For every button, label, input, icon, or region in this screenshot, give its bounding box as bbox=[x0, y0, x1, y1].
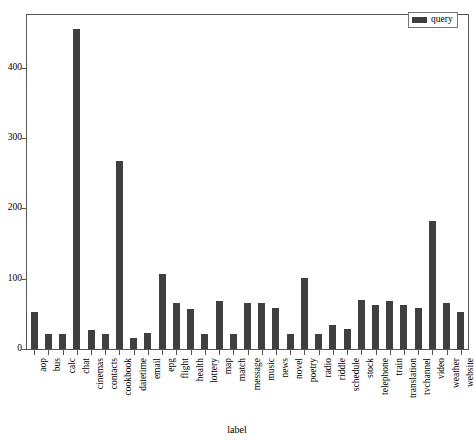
bar-video[interactable] bbox=[429, 221, 436, 349]
y-axis-tick-label: 0 bbox=[0, 343, 22, 353]
bar-email[interactable] bbox=[144, 333, 151, 349]
bar-train[interactable] bbox=[386, 301, 393, 349]
x-axis-tick-label-bus: bus bbox=[52, 358, 62, 371]
bar-poetry[interactable] bbox=[301, 278, 308, 349]
x-axis-tick-mark bbox=[418, 350, 419, 355]
x-axis-tick-label-datetime: datetime bbox=[138, 358, 148, 391]
bar-riddle[interactable] bbox=[329, 325, 336, 349]
x-axis-tick-label-tvchannel: tvchannel bbox=[422, 358, 432, 395]
bar-flight[interactable] bbox=[173, 303, 180, 349]
x-axis-tick-label-riddle: riddle bbox=[337, 358, 347, 380]
x-axis-tick-label-cinemas: cinemas bbox=[95, 358, 105, 389]
y-axis-tick-mark bbox=[21, 279, 26, 280]
x-axis-tick-label-radio: radio bbox=[323, 358, 333, 378]
x-axis-tick-label-music: music bbox=[266, 358, 276, 381]
y-axis-tick-label: 400 bbox=[0, 62, 22, 72]
x-axis-tick-mark bbox=[134, 350, 135, 355]
bar-chart: 0100200300400 aopbuscalcchatcinemasconta… bbox=[0, 0, 474, 442]
x-axis-tick-label-translation: translation bbox=[408, 358, 418, 398]
y-axis-tick-label: 300 bbox=[0, 132, 22, 142]
x-axis-tick-label-news: news bbox=[280, 358, 290, 378]
bar-translation[interactable] bbox=[400, 305, 407, 349]
x-axis-tick-label-telephone: telephone bbox=[380, 358, 390, 395]
x-axis-tick-label-weather: weather bbox=[451, 358, 461, 388]
x-axis-tick-mark bbox=[347, 350, 348, 355]
bar-message[interactable] bbox=[244, 303, 251, 349]
x-axis-tick-label-novel: novel bbox=[294, 358, 304, 379]
bar-weather[interactable] bbox=[443, 303, 450, 349]
x-axis-tick-mark bbox=[361, 350, 362, 355]
legend-label-query: query bbox=[431, 15, 453, 25]
x-axis-tick-mark bbox=[248, 350, 249, 355]
x-axis-tick-mark bbox=[205, 350, 206, 355]
x-axis-tick-mark bbox=[461, 350, 462, 355]
x-axis-tick-mark bbox=[376, 350, 377, 355]
bar-cinemas[interactable] bbox=[88, 330, 95, 349]
x-axis-tick-mark bbox=[219, 350, 220, 355]
bar-stock[interactable] bbox=[358, 300, 365, 349]
x-axis-tick-mark bbox=[191, 350, 192, 355]
bar-news[interactable] bbox=[272, 308, 279, 349]
bar-lottery[interactable] bbox=[201, 334, 208, 349]
legend-swatch-query bbox=[412, 17, 427, 23]
y-axis-tick-label: 100 bbox=[0, 273, 22, 283]
bar-bus[interactable] bbox=[45, 334, 52, 349]
x-axis-tick-mark bbox=[48, 350, 49, 355]
y-axis-tick-label: 200 bbox=[0, 202, 22, 212]
x-axis-tick-mark bbox=[148, 350, 149, 355]
bar-health[interactable] bbox=[187, 309, 194, 349]
bar-novel[interactable] bbox=[287, 334, 294, 349]
y-axis-tick-mark bbox=[21, 349, 26, 350]
x-axis-tick-label-match: match bbox=[237, 358, 247, 381]
x-axis-tick-label-aop: aop bbox=[38, 358, 48, 372]
y-axis-tick-mark bbox=[21, 138, 26, 139]
bar-aop[interactable] bbox=[31, 312, 38, 349]
bar-music[interactable] bbox=[258, 303, 265, 349]
x-axis-tick-mark bbox=[333, 350, 334, 355]
x-axis-tick-label-chat: chat bbox=[81, 358, 91, 374]
x-axis-tick-mark bbox=[432, 350, 433, 355]
bar-chat[interactable] bbox=[73, 29, 80, 349]
bar-contacts[interactable] bbox=[102, 334, 109, 349]
x-axis-tick-label-schedule: schedule bbox=[351, 358, 361, 391]
x-axis-tick-mark bbox=[77, 350, 78, 355]
x-axis-tick-label-epg: epg bbox=[166, 358, 176, 372]
x-axis-tick-mark bbox=[233, 350, 234, 355]
x-axis-tick-label-stock: stock bbox=[365, 358, 375, 378]
bar-cookbook[interactable] bbox=[116, 161, 123, 349]
x-axis-tick-label-map: map bbox=[223, 358, 233, 374]
x-axis-tick-label-website: website bbox=[465, 358, 474, 387]
x-axis-tick-mark bbox=[390, 350, 391, 355]
bar-map[interactable] bbox=[216, 301, 223, 349]
x-axis-tick-label-video: video bbox=[436, 358, 446, 379]
x-axis-tick-label-email: email bbox=[152, 358, 162, 379]
x-axis-tick-mark bbox=[91, 350, 92, 355]
x-axis-tick-mark bbox=[276, 350, 277, 355]
bar-telephone[interactable] bbox=[372, 305, 379, 349]
x-axis-tick-mark bbox=[162, 350, 163, 355]
bar-website[interactable] bbox=[457, 312, 464, 349]
x-axis-tick-mark bbox=[105, 350, 106, 355]
chart-legend[interactable]: query bbox=[408, 12, 458, 28]
x-axis-tick-mark bbox=[262, 350, 263, 355]
x-axis-tick-mark bbox=[176, 350, 177, 355]
bar-tvchannel[interactable] bbox=[415, 308, 422, 349]
x-axis-tick-mark bbox=[34, 350, 35, 355]
x-axis-tick-label-contacts: contacts bbox=[109, 358, 119, 389]
x-axis-tick-mark bbox=[404, 350, 405, 355]
plot-area bbox=[26, 14, 469, 350]
bar-datetime[interactable] bbox=[130, 338, 137, 349]
x-axis-tick-mark bbox=[319, 350, 320, 355]
x-axis-tick-mark bbox=[119, 350, 120, 355]
bar-radio[interactable] bbox=[315, 334, 322, 349]
bar-schedule[interactable] bbox=[344, 329, 351, 349]
x-axis-tick-label-poetry: poetry bbox=[308, 358, 318, 382]
bar-calc[interactable] bbox=[59, 334, 66, 349]
x-axis-tick-label-health: health bbox=[195, 358, 205, 381]
bar-epg[interactable] bbox=[159, 274, 166, 349]
x-axis-tick-mark bbox=[290, 350, 291, 355]
bar-match[interactable] bbox=[230, 334, 237, 349]
x-axis-tick-label-lottery: lottery bbox=[209, 358, 219, 383]
x-axis-title: label bbox=[0, 424, 474, 435]
x-axis-tick-label-message: message bbox=[252, 358, 262, 390]
